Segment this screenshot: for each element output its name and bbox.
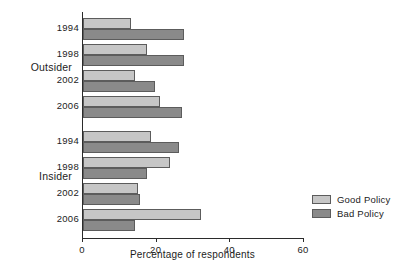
x-axis-title: Percentage of respondents xyxy=(82,249,303,260)
bar-insider-2006-bad-policy xyxy=(83,220,135,231)
legend-swatch-good-policy xyxy=(312,195,331,204)
legend-swatch-bad-policy xyxy=(312,209,331,218)
plot-area: 0204060 xyxy=(82,12,322,238)
year-label-insider-2006: 2006 xyxy=(57,213,79,224)
legend-item-bad-policy: Bad Policy xyxy=(312,207,390,219)
year-label-outsider-1998: 1998 xyxy=(57,48,79,59)
bar-outsider-1998-good-policy xyxy=(83,44,147,55)
bar-insider-1994-bad-policy xyxy=(83,142,179,153)
bar-chart: Outsider Insider 1994 1998 2002 2006 199… xyxy=(0,0,409,277)
year-label-insider-2002: 2002 xyxy=(57,187,79,198)
bar-outsider-1998-bad-policy xyxy=(83,55,184,66)
bar-outsider-1994-bad-policy xyxy=(83,29,184,40)
x-tick-60 xyxy=(303,238,304,242)
year-label-outsider-2002: 2002 xyxy=(57,74,79,85)
bar-outsider-2002-good-policy xyxy=(83,70,135,81)
year-label-insider-1998: 1998 xyxy=(57,161,79,172)
bar-insider-2002-good-policy xyxy=(83,183,138,194)
x-tick-0 xyxy=(82,238,83,242)
year-label-insider-1994: 1994 xyxy=(57,135,79,146)
bar-insider-2006-good-policy xyxy=(83,209,201,220)
legend: Good Policy Bad Policy xyxy=(312,193,390,221)
legend-label-good-policy: Good Policy xyxy=(337,194,390,205)
bar-insider-1994-good-policy xyxy=(83,131,151,142)
bar-outsider-2006-bad-policy xyxy=(83,107,182,118)
bar-insider-2002-bad-policy xyxy=(83,194,140,205)
x-tick-20 xyxy=(156,238,157,242)
bar-outsider-2002-bad-policy xyxy=(83,81,155,92)
x-tick-40 xyxy=(229,238,230,242)
x-axis-line xyxy=(82,238,303,239)
legend-label-bad-policy: Bad Policy xyxy=(337,208,384,219)
bar-insider-1998-bad-policy xyxy=(83,168,147,179)
bar-outsider-2006-good-policy xyxy=(83,96,160,107)
legend-item-good-policy: Good Policy xyxy=(312,193,390,205)
bar-outsider-1994-good-policy xyxy=(83,18,131,29)
year-label-outsider-1994: 1994 xyxy=(57,22,79,33)
year-label-outsider-2006: 2006 xyxy=(57,100,79,111)
bar-insider-1998-good-policy xyxy=(83,157,170,168)
group-label-outsider: Outsider xyxy=(31,61,72,73)
